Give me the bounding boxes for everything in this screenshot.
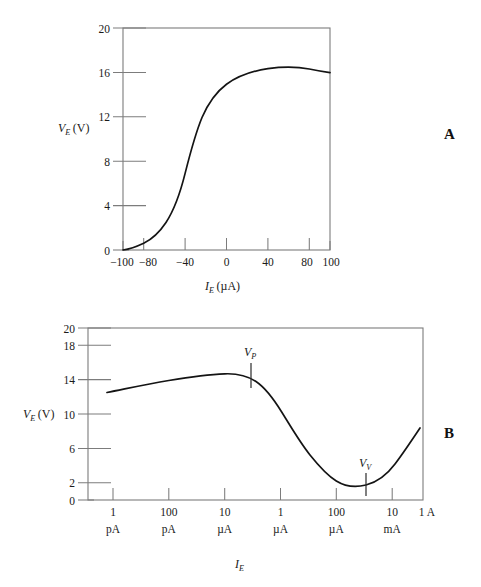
x-tick-label-value: 1 bbox=[110, 506, 116, 518]
x-axis-ticks-a bbox=[123, 238, 330, 250]
panel-letter-b: B bbox=[444, 425, 454, 442]
y-tick-label: 20 bbox=[64, 323, 76, 335]
chart-a-svg: 20 16 12 8 4 0 −100 −80 −40 bbox=[0, 0, 481, 300]
svg-text:IE: IE bbox=[234, 557, 244, 573]
x-tick-label-unit: µA bbox=[273, 523, 289, 536]
y-tick-label: 20 bbox=[99, 23, 111, 35]
y-tick-label: 8 bbox=[104, 156, 110, 168]
annotation-valley-voltage: VV bbox=[359, 456, 372, 496]
valley-voltage-label-subscript: V bbox=[366, 463, 372, 472]
x-tick-label: 80 bbox=[301, 256, 313, 268]
chart-b-svg: 20 18 14 10 6 2 0 1 pA 100 bbox=[0, 300, 481, 587]
y-tick-label: 12 bbox=[99, 111, 111, 123]
y-axis-ticks-a bbox=[113, 28, 146, 250]
x-axis-ticks-b bbox=[113, 488, 392, 500]
y-tick-label: 0 bbox=[69, 495, 75, 507]
x-axis-label-a: IE(µA) bbox=[204, 279, 240, 295]
x-tick-label-unit: pA bbox=[162, 523, 177, 536]
x-axis-label-subscript: E bbox=[238, 564, 244, 573]
y-axis-label-unit: (V) bbox=[38, 407, 55, 421]
chart-panel-b: 20 18 14 10 6 2 0 1 pA 100 bbox=[0, 300, 481, 587]
svg-text:IE(µA): IE(µA) bbox=[204, 279, 240, 295]
y-axis-label-a: VE(V) bbox=[58, 121, 90, 137]
x-axis-label-unit: (µA) bbox=[217, 279, 241, 293]
x-axis-label-b: IE bbox=[234, 557, 244, 573]
y-axis-tick-labels-a: 20 16 12 8 4 0 bbox=[99, 23, 111, 257]
x-tick-label: −40 bbox=[176, 256, 194, 268]
y-tick-label: 18 bbox=[64, 340, 76, 352]
y-axis-ticks-b bbox=[78, 328, 111, 500]
x-tick-label-unit: µA bbox=[217, 523, 233, 536]
data-curve-b bbox=[107, 374, 420, 487]
y-axis-label-unit: (V) bbox=[73, 121, 90, 135]
y-tick-label: 4 bbox=[104, 200, 110, 212]
x-axis-tick-labels-b: 1 pA 100 pA 10 µA 1 µA 100 µA 10 mA 1 A bbox=[106, 506, 436, 536]
svg-text:VE(V): VE(V) bbox=[58, 121, 90, 137]
y-tick-label: 2 bbox=[69, 477, 75, 489]
x-tick-label: 100 bbox=[322, 256, 340, 268]
x-tick-label-value: 1 bbox=[278, 506, 284, 518]
svg-text:VP: VP bbox=[244, 345, 256, 361]
x-tick-label-unit: pA bbox=[106, 523, 121, 536]
x-tick-label-value: 1 A bbox=[419, 506, 436, 518]
y-axis-label-subscript: E bbox=[64, 128, 70, 137]
chart-panel-a: 20 16 12 8 4 0 −100 −80 −40 bbox=[0, 0, 481, 300]
svg-text:VE(V): VE(V) bbox=[23, 407, 55, 423]
x-tick-label-unit: mA bbox=[384, 523, 402, 535]
svg-text:VV: VV bbox=[359, 456, 372, 472]
y-tick-label: 0 bbox=[104, 245, 110, 257]
x-tick-label: −80 bbox=[139, 256, 157, 268]
y-axis-tick-labels-b: 20 18 14 10 6 2 0 bbox=[64, 323, 76, 507]
data-curve-a bbox=[123, 67, 330, 250]
x-axis-label-subscript: E bbox=[208, 286, 214, 295]
x-tick-label-value: 10 bbox=[386, 506, 398, 518]
panel-letter-a: A bbox=[444, 126, 455, 143]
x-tick-label-value: 100 bbox=[160, 506, 178, 518]
annotation-peak-voltage: VP bbox=[244, 345, 256, 388]
y-tick-label: 10 bbox=[64, 409, 76, 421]
x-tick-label-value: 10 bbox=[219, 506, 231, 518]
plot-area-border-a bbox=[123, 28, 330, 250]
peak-voltage-label-subscript: P bbox=[250, 352, 256, 361]
x-tick-label: 0 bbox=[224, 256, 230, 268]
y-tick-label: 14 bbox=[64, 374, 76, 386]
figure-root: 20 16 12 8 4 0 −100 −80 −40 bbox=[0, 0, 481, 587]
x-axis-tick-labels-a: −100 −80 −40 0 40 80 100 bbox=[110, 256, 340, 268]
x-tick-label-value: 100 bbox=[328, 506, 346, 518]
x-tick-label: −100 bbox=[110, 256, 134, 268]
y-axis-label-b: VE(V) bbox=[23, 407, 55, 423]
x-tick-label-unit: µA bbox=[329, 523, 345, 536]
y-axis-label-subscript: E bbox=[29, 414, 35, 423]
y-tick-label: 16 bbox=[99, 67, 111, 79]
x-tick-label: 40 bbox=[262, 256, 274, 268]
y-tick-label: 6 bbox=[69, 443, 75, 455]
